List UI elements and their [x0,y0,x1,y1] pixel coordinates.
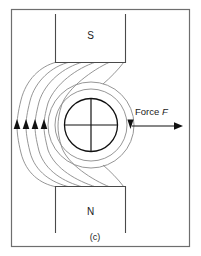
pole-south: S [56,14,126,63]
figure-caption: (c) [90,232,101,242]
force-label: Force F [135,106,169,117]
conductor-group [65,99,118,152]
pole-south-label: S [87,30,94,41]
force-label-prefix: Force [135,106,159,117]
pole-north: N [56,187,126,234]
figure-canvas: S N Force F (c) [0,0,201,256]
magnetic-field-figure: S N Force F (c) [0,0,201,256]
pole-north-label: N [87,206,94,217]
